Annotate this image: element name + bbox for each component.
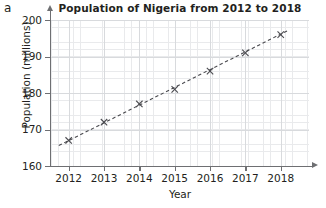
x-axis-tick-label: 2012 bbox=[49, 172, 89, 184]
x-axis-tick-label: 2018 bbox=[261, 172, 301, 184]
x-axis-tick bbox=[210, 166, 211, 171]
y-axis-line bbox=[50, 9, 51, 167]
y-axis-tick bbox=[45, 20, 51, 21]
y-axis-tick bbox=[45, 93, 51, 94]
x-axis-tick bbox=[281, 166, 282, 171]
y-axis-tick-label: 160 bbox=[2, 161, 42, 172]
x-axis-tick bbox=[69, 166, 70, 171]
major-gridlines bbox=[51, 20, 309, 166]
y-axis-title: Population (millions) bbox=[20, 0, 32, 150]
part-label: a bbox=[4, 1, 11, 15]
chart-figure: a Population of Nigeria from 2012 to 201… bbox=[0, 0, 326, 208]
x-axis-tick bbox=[245, 166, 246, 171]
x-axis-tick bbox=[175, 166, 176, 171]
gridline-horizontal bbox=[51, 20, 309, 21]
x-axis-title: Year bbox=[51, 188, 309, 200]
chart-title: Population of Nigeria from 2012 to 2018 bbox=[51, 2, 309, 15]
y-axis-tick bbox=[45, 166, 51, 167]
x-axis-tick bbox=[104, 166, 105, 171]
x-axis-tick-label: 2016 bbox=[190, 172, 230, 184]
gridline-horizontal bbox=[51, 93, 309, 94]
x-axis-tick-label: 2017 bbox=[225, 172, 265, 184]
plot-area bbox=[51, 20, 309, 166]
x-axis-tick bbox=[139, 166, 140, 171]
x-axis-arrow-icon bbox=[312, 162, 318, 168]
x-axis-tick-label: 2013 bbox=[84, 172, 124, 184]
y-axis-arrow-icon bbox=[47, 5, 53, 11]
x-axis-tick-label: 2015 bbox=[155, 172, 195, 184]
gridline-horizontal bbox=[51, 57, 309, 58]
x-axis-tick-label: 2014 bbox=[119, 172, 159, 184]
y-axis-tick bbox=[45, 57, 51, 58]
y-axis-tick bbox=[45, 130, 51, 131]
gridline-horizontal bbox=[51, 130, 309, 131]
x-axis-line bbox=[50, 166, 313, 167]
